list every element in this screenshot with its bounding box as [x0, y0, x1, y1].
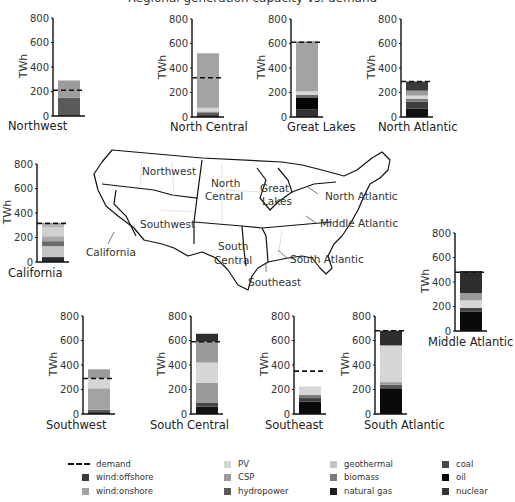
- legend-item-biomass: biomass: [330, 472, 379, 482]
- region-label-south-atlantic: South Atlantic: [364, 418, 445, 432]
- y-tick-label: 600: [378, 38, 397, 49]
- y-tick-label: 600: [60, 335, 79, 346]
- legend-swatch-icon: [224, 461, 231, 468]
- bar-segment-oil: [296, 97, 318, 109]
- legend: demand wind:offshorewind:onshorePVCSPhyd…: [62, 457, 502, 501]
- bar-segment-oil: [380, 388, 402, 414]
- legend-item-geothermal: geothermal: [330, 459, 393, 469]
- bar-segment-csp: [406, 91, 428, 96]
- y-axis-label: TWh: [156, 55, 169, 81]
- y-tick-label: 600: [432, 252, 451, 263]
- chart-northwest: 0200400600800TWh: [18, 14, 113, 130]
- bar-segment-wind-onshore: [296, 42, 318, 91]
- bar-segment-pv: [88, 378, 110, 388]
- bar-segment-oil: [196, 407, 218, 414]
- bar-segment-biomass: [406, 99, 428, 102]
- bar-segment-coal: [299, 398, 321, 402]
- y-tick-label: 400: [14, 208, 33, 219]
- y-tick-label: 800: [30, 13, 49, 24]
- bar-segment-coal: [196, 403, 218, 407]
- bar-segment-natural-gas: [42, 257, 64, 262]
- y-tick-label: 400: [30, 62, 49, 73]
- legend-swatch-icon: [330, 488, 337, 495]
- region-label-south-central: South Central: [150, 418, 229, 432]
- bar-segment-biomass: [197, 111, 219, 112]
- y-tick-label: 800: [14, 159, 33, 170]
- bar-segment-biomass: [296, 95, 318, 97]
- y-tick-label: 200: [169, 87, 188, 98]
- y-tick-label: 200: [168, 384, 187, 395]
- legend-item-hydropower: hydropower: [224, 486, 289, 496]
- map-label-south-central-2: Central: [214, 254, 252, 266]
- legend-swatch-icon: [442, 488, 449, 495]
- legend-item-oil: oil: [442, 472, 466, 482]
- legend-item-nuclear: nuclear: [442, 486, 488, 496]
- y-axis-label: TWh: [1, 200, 14, 226]
- y-tick-label: 200: [432, 301, 451, 312]
- map-label-north-atlantic: North Atlantic: [325, 190, 398, 202]
- bar-segment-geothermal: [42, 246, 64, 257]
- bar-segment-csp: [42, 236, 64, 241]
- y-tick-label: 600: [352, 335, 371, 346]
- y-tick-label: 600: [14, 183, 33, 194]
- map-label-california: California: [86, 246, 136, 258]
- bar-segment-coal: [406, 102, 428, 109]
- bar-segment-wind-offshore: [380, 331, 402, 346]
- y-axis-label: TWh: [365, 55, 378, 81]
- bar-segment-wind-onshore: [42, 224, 64, 227]
- bar-segment-biomass: [380, 385, 402, 389]
- y-tick-label: 600: [30, 37, 49, 48]
- chart-title: Regional generation capacity vs. demand: [0, 0, 505, 5]
- bar-segment-csp: [196, 342, 218, 363]
- legend-item-coal: coal: [442, 459, 473, 469]
- map-label-great-lakes-1: Great: [260, 182, 289, 194]
- bar-segment-csp: [88, 369, 110, 378]
- y-tick-label: 200: [378, 87, 397, 98]
- y-axis-label: TWh: [419, 269, 432, 295]
- region-label-north-central: North Central: [170, 120, 248, 134]
- legend-item-natural-gas: natural gas: [330, 486, 392, 496]
- y-tick-label: 400: [432, 277, 451, 288]
- bar-segment-oil: [299, 402, 321, 414]
- map-label-southeast: Southeast: [248, 276, 301, 288]
- bar-segment-nuclear: [296, 110, 318, 117]
- y-tick-label: 400: [168, 360, 187, 371]
- y-axis-label: TWh: [258, 352, 271, 378]
- legend-swatch-icon: [224, 488, 231, 495]
- y-tick-label: 200: [268, 87, 287, 98]
- y-tick-label: 800: [169, 14, 188, 25]
- y-tick-label: 600: [169, 38, 188, 49]
- y-tick-label: 400: [268, 63, 287, 74]
- y-axis-label: TWh: [339, 352, 352, 378]
- bar-segment-wind-offshore: [196, 334, 218, 342]
- region-label-northwest: Northwest: [8, 119, 67, 133]
- map-label-north-central-2: Central: [205, 190, 243, 202]
- y-tick-label: 200: [271, 384, 290, 395]
- legend-swatch-icon: [82, 474, 89, 481]
- y-tick-label: 800: [352, 311, 371, 322]
- map-label-southwest: Southwest: [140, 218, 195, 230]
- legend-swatch-icon: [330, 474, 337, 481]
- region-label-southeast: Southeast: [265, 418, 323, 432]
- legend-item-demand: demand: [68, 459, 131, 469]
- y-tick-label: 200: [352, 384, 371, 395]
- legend-swatch-icon: [82, 488, 89, 495]
- legend-item-wind-offshore: wind:offshore: [82, 472, 154, 482]
- y-tick-label: 600: [271, 335, 290, 346]
- y-tick-label: 400: [60, 360, 79, 371]
- chart-north-atlantic: 0200400600800TWh: [366, 15, 461, 131]
- region-label-southwest: Southwest: [46, 418, 106, 432]
- y-tick-label: 400: [378, 63, 397, 74]
- y-axis-label: TWh: [255, 55, 268, 81]
- bar-segment-geothermal: [380, 382, 402, 384]
- legend-item-wind-onshore: wind:onshore: [82, 486, 153, 496]
- bar-segment-hydropower: [88, 410, 110, 412]
- map-label-south-central-1: South: [218, 240, 249, 252]
- region-label-north-atlantic: North Atlantic: [378, 120, 458, 134]
- y-tick-label: 800: [432, 228, 451, 239]
- legend-item-pv: PV: [224, 459, 249, 469]
- bar-segment-coal: [460, 308, 482, 312]
- bar-segment-pv: [380, 345, 402, 382]
- bar-segment-oil: [406, 108, 428, 117]
- bar-segment-wind-offshore: [406, 81, 428, 90]
